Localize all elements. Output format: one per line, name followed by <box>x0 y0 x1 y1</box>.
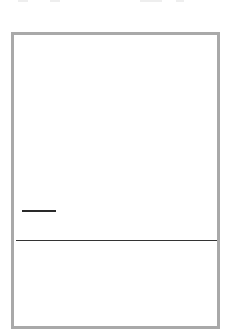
dash-mark <box>22 210 56 212</box>
cropped-top-elements <box>0 0 226 4</box>
cropped-mark <box>176 0 184 2</box>
cropped-mark <box>18 0 28 2</box>
cropped-mark <box>140 0 162 2</box>
divider-line <box>16 240 217 241</box>
cropped-mark <box>50 0 60 2</box>
bordered-panel <box>11 32 220 329</box>
